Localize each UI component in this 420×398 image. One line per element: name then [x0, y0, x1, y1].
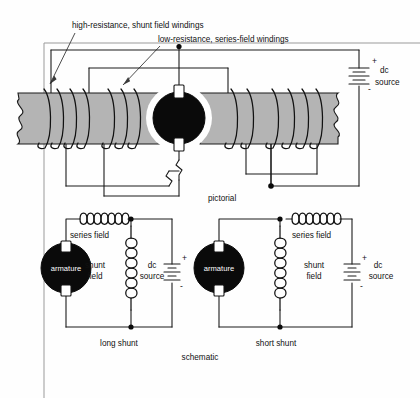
long-shunt-source-label-dc: dc: [148, 261, 157, 270]
pictorial-source-minus: -: [368, 84, 371, 94]
pictorial-caption: pictorial: [208, 194, 236, 203]
right-pole-piece: [200, 93, 339, 144]
schematic-long-shunt: armature + - series field shunt field dc…: [41, 213, 187, 348]
short-shunt-brush-top: [214, 241, 224, 252]
short-shunt-shunt-coil: [275, 226, 286, 310]
short-shunt-node-bottom: [277, 324, 282, 329]
junction-dot-top: [176, 44, 181, 49]
schematic-caption: schematic: [182, 353, 219, 362]
long-shunt-shunt-label-2: field: [87, 272, 102, 281]
long-shunt-series-label: series field: [70, 231, 110, 240]
compound-dc-machine-diagram: high-resistance, shunt field windings lo…: [0, 0, 420, 398]
long-shunt-dc-source: [164, 264, 180, 280]
figure-canvas: high-resistance, shunt field windings lo…: [0, 0, 420, 398]
long-shunt-brush-top: [61, 241, 71, 252]
short-shunt-source-label-source: source: [369, 272, 394, 281]
short-shunt-dc-source: [344, 264, 360, 280]
schematic-short-shunt: armature + - series field shunt field dc…: [194, 213, 394, 348]
short-shunt-shunt-label-1: shunt: [304, 261, 325, 270]
pictorial-source-plus: +: [372, 56, 377, 66]
pictorial-source-label-dc: dc: [380, 66, 389, 75]
short-shunt-caption: short shunt: [256, 339, 297, 348]
junction-dot-bottom-right: [268, 183, 274, 189]
long-shunt-node-bottom: [128, 324, 133, 329]
short-shunt-shunt-label-2: field: [306, 272, 321, 281]
annotation-series-label: low-resistance, series-field windings: [158, 35, 289, 44]
brush-top: [174, 85, 184, 98]
annotation-arrow-shunt: [50, 33, 75, 84]
pictorial-source-label-source: source: [375, 78, 400, 87]
short-shunt-source-label-dc: dc: [374, 261, 383, 270]
long-shunt-shunt-coil: [126, 226, 137, 310]
long-shunt-source-label-source: source: [140, 272, 165, 281]
short-shunt-source-minus: -: [360, 281, 363, 291]
short-shunt-source-plus: +: [362, 253, 367, 263]
brush-bottom: [174, 138, 184, 151]
short-shunt-series-label: series field: [292, 231, 332, 240]
short-shunt-node-top: [277, 216, 282, 221]
long-shunt-armature-label: armature: [51, 264, 81, 273]
long-shunt-shunt-label-1: shunt: [85, 261, 106, 270]
annotation-arrow-series: [123, 46, 160, 85]
pictorial-section: high-resistance, shunt field windings lo…: [17, 21, 400, 203]
annotation-shunt-label: high-resistance, shunt field windings: [72, 21, 204, 30]
pictorial-dc-source: [349, 68, 369, 84]
long-shunt-node-top: [128, 216, 133, 221]
short-shunt-series-coil: [292, 213, 341, 224]
long-shunt-source-minus: -: [180, 281, 183, 291]
armature-rotor: [153, 92, 205, 144]
long-shunt-caption: long shunt: [100, 339, 139, 348]
long-shunt-brush-bottom: [61, 285, 71, 296]
long-shunt-source-plus: +: [182, 253, 187, 263]
short-shunt-armature-label: armature: [204, 264, 234, 273]
long-shunt-series-coil: [80, 213, 129, 224]
short-shunt-brush-bottom: [214, 285, 224, 296]
